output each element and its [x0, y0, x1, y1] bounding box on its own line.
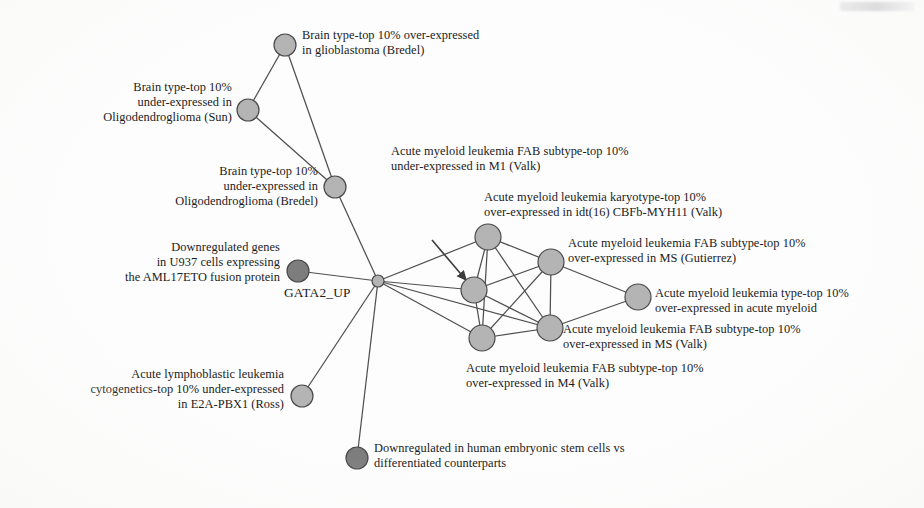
- node-label-aml-fab-m4-valk: Acute myeloid leukemia FAB subtype-top 1…: [466, 361, 704, 391]
- graph-node-aml-type-acute-myeloid[interactable]: [625, 284, 651, 310]
- graph-node-aml-fab-m1-valk[interactable]: [461, 277, 487, 303]
- graph-node-embryonic-stem-cells[interactable]: [346, 447, 368, 469]
- graph-node-aml-karyotype-cbfb-myh11[interactable]: [475, 224, 501, 250]
- graph-edge: [488, 237, 550, 328]
- pointer-arrow-icon: [432, 240, 466, 280]
- graph-node-aml-fab-ms-valk[interactable]: [537, 315, 563, 341]
- graph-node-aml-fab-ms-gutierrez[interactable]: [538, 249, 564, 275]
- graph-edge: [551, 262, 638, 297]
- graph-node-glioblastoma-bredel[interactable]: [274, 34, 296, 56]
- annotation-layer: [432, 240, 466, 280]
- graph-node-oligodendroglioma-bredel[interactable]: [324, 176, 346, 198]
- node-label-aml-karyotype-cbfb-myh11: Acute myeloid leukemia karyotype-top 10%…: [484, 190, 722, 220]
- graph-node-oligodendroglioma-sun[interactable]: [237, 99, 259, 121]
- node-label-aml-fab-m1-valk: Acute myeloid leukemia FAB subtype-top 1…: [391, 144, 629, 174]
- node-label-e2a-pbx1-ross: Acute lymphoblastic leukemia cytogenetic…: [0, 367, 284, 413]
- node-label-aml-type-acute-myeloid: Acute myeloid leukemia type-top 10% over…: [655, 286, 849, 316]
- node-label-oligodendroglioma-sun: Brain type-top 10% under-expressed in Ol…: [0, 80, 232, 126]
- graph-edge: [335, 187, 378, 281]
- graph-edge: [298, 271, 378, 281]
- graph-node-aml-fab-m4-valk[interactable]: [469, 325, 495, 351]
- graph-node-hub-gata2-up[interactable]: [372, 275, 384, 287]
- node-label-glioblastoma-bredel: Brain type-top 10% over-expressed in gli…: [302, 28, 479, 58]
- node-label-aml-fab-ms-gutierrez: Acute myeloid leukemia FAB subtype-top 1…: [568, 236, 806, 266]
- node-label-embryonic-stem-cells: Downregulated in human embryonic stem ce…: [374, 441, 625, 471]
- node-label-hub-gata2-up: GATA2_UP: [284, 285, 351, 300]
- graph-edge: [378, 237, 488, 281]
- node-label-aml17eto-u937: Downregulated genes in U937 cells expres…: [0, 240, 280, 286]
- graph-node-aml17eto-u937[interactable]: [287, 260, 309, 282]
- graph-node-e2a-pbx1-ross[interactable]: [291, 385, 313, 407]
- node-label-oligodendroglioma-bredel: Brain type-top 10% under-expressed in Ol…: [0, 164, 318, 210]
- network-diagram-canvas: Brain type-top 10% over-expressed in gli…: [0, 0, 924, 508]
- node-label-aml-fab-ms-valk: Acute myeloid leukemia FAB subtype-top 1…: [563, 322, 801, 352]
